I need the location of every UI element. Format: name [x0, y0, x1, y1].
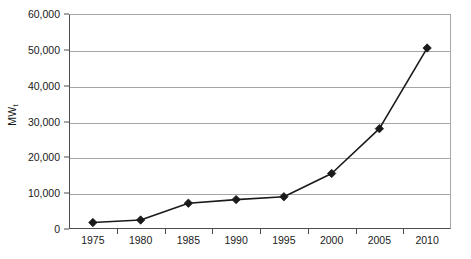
data-series [0, 0, 471, 259]
data-point-marker [184, 199, 192, 207]
data-point-marker [280, 193, 288, 201]
data-point-marker [232, 195, 240, 203]
data-point-marker [136, 216, 144, 224]
data-point-marker [89, 218, 97, 226]
series-line [93, 48, 427, 223]
data-point-marker [423, 44, 431, 52]
line-chart: MWt 010,00020,00030,00040,00050,00060,00… [0, 0, 471, 259]
